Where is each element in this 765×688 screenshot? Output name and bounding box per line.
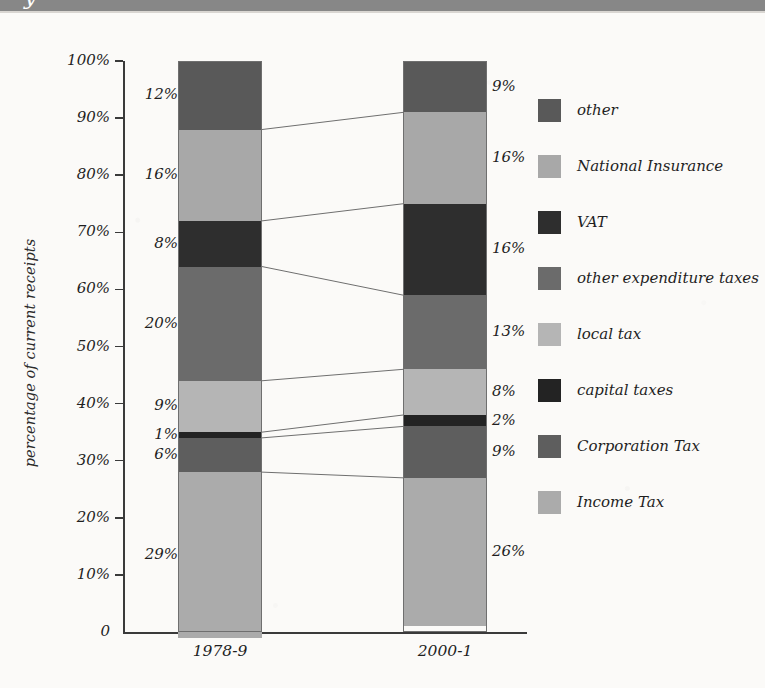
segment-value-label: 26% [492,542,525,560]
connector-line [262,112,403,129]
y-tick-label: 80% [48,165,110,183]
y-axis-title: percentage of current receipts [22,173,38,533]
y-tick-label: 0 [48,622,110,640]
segment-value-label: 8% [122,234,178,252]
segment-value-label: 16% [492,148,525,166]
segment-value-label: 13% [492,322,525,340]
y-tick-label: 50% [48,337,110,355]
y-tick-label: 30% [48,451,110,469]
x-tick-label: 1978-9 [150,642,290,660]
y-tick-label: 20% [48,508,110,526]
segment-value-label: 6% [122,445,178,463]
segment-value-label: 1% [122,425,178,443]
segment-connector-lines [0,0,765,688]
figure-page: y percentage of current receipts 010%20%… [0,0,765,688]
connector-line [262,472,403,478]
y-tick-mark [115,60,123,62]
bar-outline [178,61,262,632]
y-tick-mark [115,117,123,119]
y-tick-label: 60% [48,279,110,297]
segment-value-label: 9% [122,396,178,414]
connector-line [262,426,403,437]
segment-value-label: 29% [122,545,178,563]
segment-value-label: 9% [492,77,516,95]
y-tick-label: 40% [48,394,110,412]
segment-value-label: 9% [492,442,516,460]
connector-line [262,267,403,296]
segment-value-label: 16% [122,165,178,183]
x-tick-label: 2000-1 [375,642,515,660]
y-tick-label: 90% [48,108,110,126]
segment-value-label: 16% [492,239,525,257]
y-tick-mark [115,346,123,348]
y-tick-mark [115,289,123,291]
y-tick-mark [115,517,123,519]
connector-line [262,204,403,221]
y-tick-mark [115,574,123,576]
segment-value-label: 8% [492,382,516,400]
segment-value-label: 20% [122,314,178,332]
y-tick-label: 100% [48,51,110,69]
segment-value-label: 2% [492,411,516,429]
connector-line [262,415,403,432]
segment-value-label: 12% [122,85,178,103]
bar-outline [403,61,487,632]
y-tick-label: 10% [48,565,110,583]
connector-line [262,369,403,380]
y-tick-label: 70% [48,222,110,240]
stacked-bar-chart: percentage of current receipts 010%20%30… [0,0,765,688]
